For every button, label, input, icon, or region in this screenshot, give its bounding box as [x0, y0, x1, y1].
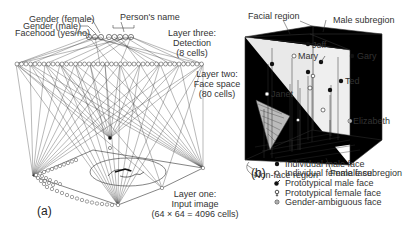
label-layer-three: Layer three: Detection (8 cells) [161, 28, 223, 58]
legend: Individual male face Individual female f… [273, 159, 382, 207]
legend-item-gender-ambiguous: Gender-ambiguous face [273, 197, 382, 207]
label-facial-region: Facial region [248, 11, 300, 21]
point-label-ted: Ted [345, 76, 360, 86]
legend-label: Prototypical male face [285, 178, 374, 188]
male-symbol-icon [273, 179, 281, 187]
legend-item-prototypical-female: Prototypical female face [273, 188, 382, 198]
layer-two-name: Face space [186, 79, 248, 89]
label-layer-one: Layer one: Input image (64 × 64 = 4096 c… [145, 189, 245, 219]
label-male-subregion: Male subregion [333, 15, 395, 25]
layer-three-title: Layer three: [161, 28, 223, 38]
label-layer-two: Layer two: Face space (80 cells) [186, 69, 248, 99]
legend-label: Individual male face [285, 159, 365, 169]
layer-three-count: (8 cells) [161, 48, 223, 58]
point-label-elizabeth: Elizabeth [353, 116, 390, 126]
point-mary-dot [292, 54, 296, 58]
layer-three-name: Detection [161, 38, 223, 48]
legend-item-individual-male: Individual male face [273, 159, 382, 169]
legend-item-prototypical-male: Prototypical male face [273, 178, 382, 188]
layer-one-name: Input image [145, 199, 245, 209]
open-dot-icon [273, 169, 281, 177]
legend-label: Prototypical female face [285, 188, 381, 198]
point-gary-dot [350, 54, 354, 58]
label-persons-name: Person's name [120, 12, 180, 22]
point-label-gary: Gary [357, 51, 377, 61]
filled-dot-icon [273, 160, 281, 168]
point-label-jeff: Jeff [312, 40, 326, 50]
layer-two-count: (80 cells) [186, 89, 248, 99]
point-label-mary: Mary [298, 51, 318, 61]
focal-node-dot [108, 136, 112, 140]
layer-two-title: Layer two: [186, 69, 248, 79]
legend-label: Individual female face [285, 168, 372, 178]
panel-label-b: (b) [251, 167, 266, 179]
legend-label: Gender-ambiguous face [285, 197, 382, 207]
point-label-janet: Janet [271, 89, 293, 99]
label-facehood: Facehood (yes/no) [15, 28, 90, 38]
female-symbol-icon [273, 189, 281, 197]
point-jeff-dot [306, 42, 310, 46]
point-ted-dot [339, 79, 343, 83]
panel-label-a: (a) [37, 205, 52, 217]
point-janet-dot [265, 92, 269, 96]
layer-one-count: (64 × 64 = 4096 cells) [145, 209, 245, 219]
legend-item-individual-female: Individual female face [273, 169, 382, 179]
layer-three-cells [86, 34, 133, 39]
layer-one-title: Layer one: [145, 189, 245, 199]
dotted-dot-icon [273, 198, 281, 206]
